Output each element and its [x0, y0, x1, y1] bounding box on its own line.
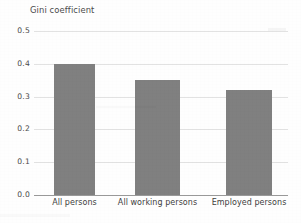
- gridline: [34, 31, 288, 32]
- plot-area: [34, 31, 288, 195]
- chart-title: Gini coefficient: [30, 5, 95, 15]
- bar-chart: Gini coefficient 0.00.10.20.30.40.5 All …: [0, 0, 301, 223]
- y-axis-tick-label: 0.5: [17, 26, 30, 35]
- bar: [54, 64, 95, 195]
- axis-baseline: [34, 195, 288, 196]
- y-axis-tick-labels: 0.00.10.20.30.40.5: [0, 31, 30, 195]
- x-axis-tick-label: Employed persons: [189, 198, 301, 207]
- y-axis-tick-label: 0.1: [17, 157, 30, 166]
- bar: [135, 80, 180, 195]
- x-axis-tick-labels: All personsAll working personsEmployed p…: [0, 198, 301, 216]
- y-axis-tick-label: 0.2: [17, 124, 30, 133]
- y-axis-tick-label: 0.4: [17, 59, 30, 68]
- y-axis-tick-label: 0.3: [17, 92, 30, 101]
- bar: [226, 90, 272, 195]
